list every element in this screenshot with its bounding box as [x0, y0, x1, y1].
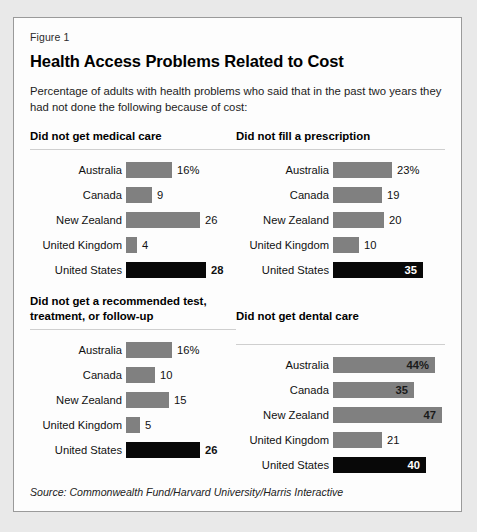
bar-track: 26: [126, 207, 236, 232]
bar-category-label: United States: [236, 459, 333, 471]
figure-card: Figure 1 Health Access Problems Related …: [13, 17, 462, 512]
chart-row-bottom: Did not get a recommended test, treatmen…: [30, 294, 445, 477]
bar-category-label: United States: [30, 444, 126, 456]
bar-track: 35: [333, 377, 445, 402]
bar: [333, 432, 382, 448]
bar-category-label: Australia: [30, 164, 126, 176]
figure-subtitle: Percentage of adults with health problem…: [30, 84, 445, 115]
chart-title: Did not get medical care: [30, 129, 236, 144]
chart-title-rule: [236, 344, 445, 345]
chart-panel-recommended-test: Did not get a recommended test, treatmen…: [30, 294, 236, 477]
bar-row: Australia23%: [236, 157, 445, 182]
bar-category-label: Canada: [236, 189, 333, 201]
bar-category-label: United States: [30, 264, 126, 276]
figure-label: Figure 1: [30, 31, 445, 43]
bar: [126, 162, 172, 178]
bar-category-label: New Zealand: [30, 214, 126, 226]
bar-track: 9: [126, 182, 236, 207]
bar-row: United Kingdom5: [30, 412, 236, 437]
bar-category-label: New Zealand: [236, 214, 333, 226]
bar-category-label: Australia: [236, 359, 333, 371]
bar-row: Australia16%: [30, 157, 236, 182]
bar-track: 16%: [126, 157, 236, 182]
chart-title: Did not get dental care: [236, 294, 445, 339]
bar-value-label: 5: [145, 419, 151, 431]
bar-category-label: Australia: [30, 344, 126, 356]
bar-track: 44%: [333, 352, 445, 377]
chart-title-rule: [30, 149, 236, 150]
bar-row: United States26: [30, 437, 236, 462]
bar-value-label: 19: [387, 189, 399, 201]
bar: [126, 262, 206, 278]
bar: [126, 212, 200, 228]
bar-track: 20: [333, 207, 445, 232]
bar-row: Canada19: [236, 182, 445, 207]
bar: [333, 162, 392, 178]
bar-value-label: 28: [211, 264, 223, 276]
bar-value-label: 26: [205, 214, 217, 226]
bar-row: New Zealand20: [236, 207, 445, 232]
bar: [333, 237, 359, 253]
bar-category-label: United Kingdom: [236, 434, 333, 446]
bar-value-label: 20: [389, 214, 401, 226]
bar-value-label: 10: [364, 239, 376, 251]
bar-value-label: 44%: [407, 359, 429, 371]
bar: [126, 187, 152, 203]
bar-row: Australia44%: [236, 352, 445, 377]
bar-row: Canada10: [30, 362, 236, 387]
bar-category-label: United Kingdom: [30, 239, 126, 251]
bar-track: 10: [333, 232, 445, 257]
bar-track: 23%: [333, 157, 445, 182]
chart-panels: Did not get medical care Australia16%Can…: [30, 129, 445, 477]
figure-page: Figure 1 Health Access Problems Related …: [0, 0, 477, 532]
chart-bars: Australia44%Canada35New Zealand47United …: [236, 352, 445, 477]
bar-value-label: 26: [205, 444, 217, 456]
chart-panel-medical-care: Did not get medical care Australia16%Can…: [30, 129, 236, 282]
bar-row: Australia16%: [30, 337, 236, 362]
bar: [126, 342, 172, 358]
bar-value-label: 15: [174, 394, 186, 406]
bar-value-label: 21: [387, 434, 399, 446]
bar-category-label: United States: [236, 264, 333, 276]
bar-row: Canada9: [30, 182, 236, 207]
bar-track: 19: [333, 182, 445, 207]
bar-track: 4: [126, 232, 236, 257]
bar-track: 28: [126, 257, 236, 282]
bar: [126, 367, 155, 383]
bar-category-label: Canada: [30, 369, 126, 381]
bar-category-label: New Zealand: [30, 394, 126, 406]
bar-track: 15: [126, 387, 236, 412]
chart-panel-dental-care: Did not get dental care Australia44%Cana…: [236, 294, 445, 477]
bar-value-label: 35: [405, 264, 417, 276]
bar-row: New Zealand26: [30, 207, 236, 232]
bar-row: Canada35: [236, 377, 445, 402]
chart-bars: Australia23%Canada19New Zealand20United …: [236, 157, 445, 282]
bar-row: United Kingdom21: [236, 427, 445, 452]
chart-panel-prescription: Did not fill a prescription Australia23%…: [236, 129, 445, 282]
bar-category-label: Canada: [30, 189, 126, 201]
bar-value-label: 35: [396, 384, 408, 396]
chart-bars: Australia16%Canada10New Zealand15United …: [30, 337, 236, 462]
bar-value-label: 16%: [177, 344, 199, 356]
bar-value-label: 4: [142, 239, 148, 251]
chart-row-top: Did not get medical care Australia16%Can…: [30, 129, 445, 282]
bar-row: New Zealand15: [30, 387, 236, 412]
bar-row: United States35: [236, 257, 445, 282]
chart-title: Did not get a recommended test, treatmen…: [30, 294, 236, 324]
chart-title-rule: [30, 329, 236, 330]
bar-value-label: 23%: [397, 164, 419, 176]
bar-row: United States40: [236, 452, 445, 477]
bar-row: United Kingdom10: [236, 232, 445, 257]
bar: [126, 237, 137, 253]
bar-track: 16%: [126, 337, 236, 362]
bar: [126, 442, 200, 458]
bar-value-label: 47: [424, 409, 436, 421]
bar-value-label: 9: [157, 189, 163, 201]
bar-row: New Zealand47: [236, 402, 445, 427]
bar: [126, 417, 140, 433]
bar: [333, 187, 382, 203]
bar: [333, 212, 384, 228]
bar-value-label: 16%: [177, 164, 199, 176]
chart-title: Did not fill a prescription: [236, 129, 445, 144]
bar-value-label: 10: [160, 369, 172, 381]
